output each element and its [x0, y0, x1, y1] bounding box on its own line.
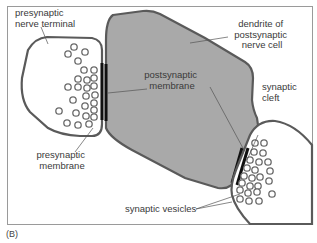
label-synaptic-cleft: synaptic cleft [262, 81, 300, 103]
label-presynaptic-terminal: presynaptic nerve terminal [15, 7, 75, 29]
label-synaptic-vesicles: synaptic vesicles [125, 203, 197, 214]
label-presynaptic-membrane: presynaptic membrane [36, 149, 87, 171]
panel-label: (B) [6, 229, 18, 239]
label-dendrite: dendrite of postsynaptic nerve cell [234, 18, 289, 50]
label-postsynaptic-membrane: postsynaptic membrane [144, 69, 199, 91]
synapse-diagram: presynaptic nerve terminal dendrite of p… [0, 0, 317, 243]
